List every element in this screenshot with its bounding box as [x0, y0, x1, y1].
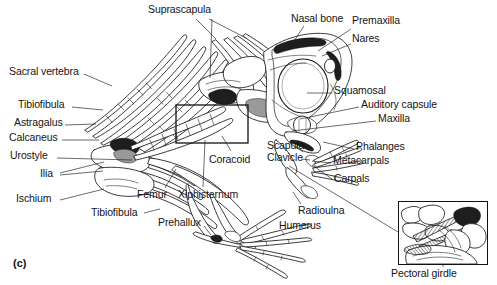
label-humerus: Humerus [279, 220, 321, 231]
label-metacarpals: Metacarpals [333, 155, 389, 166]
label-squamosal: Squamosal [334, 85, 386, 96]
label-nares: Nares [352, 33, 380, 44]
leader-sacral-vertebra [84, 74, 112, 86]
label-clavicle: Clavicle [267, 152, 303, 163]
inset-caption-pectoral-girdle: Pectoral girdle [391, 268, 457, 279]
label-prehallux: Prehallux [158, 217, 201, 228]
leader-astragalus [65, 124, 96, 125]
label-astragalus: Astragalus [14, 117, 63, 128]
label-sacral-vertebra: Sacral vertebra [9, 66, 79, 77]
inset-drawing [399, 202, 488, 265]
leader-tibiofibula-1 [72, 107, 103, 110]
label-premaxilla: Premaxilla [352, 15, 400, 26]
leader-suprascapula-a [196, 19, 216, 39]
leader-ischium [60, 189, 104, 200]
label-coracoid: Coracoid [209, 154, 250, 165]
leader-tibiofibula-2 [144, 209, 160, 213]
pectoral-girdle-inset [398, 201, 488, 265]
label-xiphisternum: Xiphisternum [178, 189, 238, 200]
label-ischium: Ischium [16, 193, 51, 204]
leader-suprascapula-b [209, 19, 246, 38]
label-auditory-capsule: Auditory capsule [361, 99, 437, 110]
label-scapula: Scapula [267, 140, 304, 151]
label-tibiofibula-1: Tibiofibula [18, 99, 64, 110]
label-phalanges: Phalanges [356, 141, 405, 152]
label-nasal-bone: Nasal bone [291, 13, 343, 24]
label-carpals: Carpals [334, 173, 369, 184]
label-urostyle: Urostyle [10, 150, 48, 161]
label-femur: Femur [137, 189, 167, 200]
label-suprascapula: Suprascapula [148, 4, 211, 15]
label-maxilla: Maxilla [378, 113, 410, 124]
label-calcaneus: Calcaneus [9, 132, 58, 143]
label-radioulna: Radioulna [298, 205, 344, 216]
figure-frog-skeleton: SuprascapulaNasal bonePremaxillaNaresSac… [0, 0, 497, 285]
panel-caption-c: (c) [13, 257, 26, 269]
leader-suprascapula-c [210, 19, 212, 78]
label-ilia: Ilia [40, 168, 53, 179]
label-tibiofibula-2: Tibiofibula [91, 207, 137, 218]
leader-radioulna [293, 192, 301, 204]
